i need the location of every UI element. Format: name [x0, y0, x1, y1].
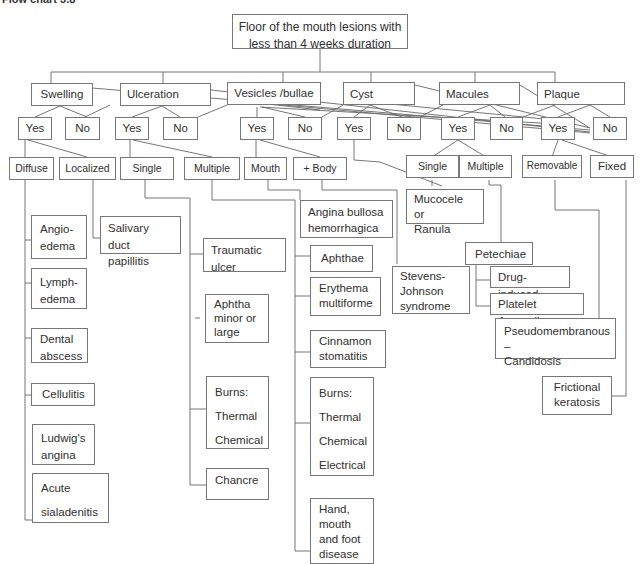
category-label: Ulceration: [127, 86, 179, 103]
subtype-label: Multiple: [467, 159, 503, 174]
dx-petechiae: Petechiae: [465, 242, 533, 265]
subtype-label: Single: [418, 159, 447, 174]
category-label: Macules: [446, 88, 489, 100]
no-label: No: [298, 120, 313, 137]
subtype-label: Multiple: [194, 161, 230, 176]
dx-angioedema: Angio- edema: [31, 215, 87, 259]
category-plaque: Plaque: [537, 82, 625, 105]
diagnosis-label: Dental abscess: [40, 333, 82, 362]
diagnosis-label: Cellulitis: [42, 388, 85, 400]
category-vesicles: Vesicles /bullae: [227, 82, 321, 105]
subtype-label: Single: [132, 161, 161, 176]
diagnosis-label: Angina bullosa hemorrhagica: [308, 206, 383, 234]
vesicles-yes: Yes: [240, 117, 274, 140]
diagnosis-label: Acute sialadenitis: [41, 482, 98, 518]
subtype-label: Diffuse: [15, 161, 48, 176]
ulceration-no: No: [163, 117, 198, 140]
category-label: Vesicles /bullae: [234, 85, 313, 102]
dx-frictional-keratosis: Frictional keratosis: [542, 376, 612, 415]
yes-label: Yes: [26, 120, 45, 137]
plaque-fixed: Fixed: [590, 155, 634, 178]
dx-aphthae: Aphthae: [310, 245, 373, 272]
diagnosis-label: Traumatic ulcer: [211, 244, 262, 273]
category-label: Plaque: [544, 88, 580, 100]
dx-cinnamon-stomatitis: Cinnamon stomatitis: [310, 330, 386, 368]
yes-label: Yes: [549, 120, 568, 137]
no-label: No: [603, 120, 618, 137]
no-label: No: [75, 120, 90, 137]
yes-label: Yes: [248, 120, 267, 137]
dx-traumatic-ulcer: Traumatic ulcer: [203, 238, 286, 272]
category-macules: Macules: [439, 82, 520, 105]
diagnosis-label: Aphthae: [321, 252, 364, 264]
category-swelling: Swelling: [31, 83, 93, 106]
diagnosis-label: Ludwig's angina: [41, 432, 85, 461]
macules-single: Single: [406, 155, 459, 178]
diagnosis-label: Erythema multiforme: [319, 282, 373, 309]
diagnosis-label: Burns: Thermal Chemical Electrical: [319, 387, 367, 471]
dx-ludwigs-angina: Ludwig's angina: [32, 424, 95, 465]
diagnosis-label: Burns: Thermal Chemical: [215, 386, 263, 446]
root-node: Floor of the mouth lesions with less tha…: [232, 14, 408, 49]
diagnosis-label: Aphtha minor or large: [214, 298, 256, 338]
category-ulceration: Ulceration: [120, 83, 211, 106]
swelling-no: No: [65, 117, 100, 140]
dx-hand-mouth-foot: Hand, mouth and foot disease: [310, 498, 374, 564]
diagnosis-label: Chancre: [215, 474, 258, 486]
category-label: Swelling: [41, 86, 84, 103]
dx-pseudomembranous-candidosis: Pseudomembranous – Candidosis: [495, 318, 616, 359]
ulceration-multiple: Multiple: [184, 157, 240, 180]
ulceration-yes: Yes: [115, 117, 149, 140]
dx-mucocele-ranula: Mucocele or Ranula: [406, 189, 484, 224]
diagnosis-label: Cinnamon stomatitis: [319, 335, 371, 362]
diagnosis-label: Frictional keratosis: [554, 381, 601, 408]
dx-angina-bullosa: Angina bullosa hemorrhagica: [300, 200, 393, 238]
plaque-yes: Yes: [541, 117, 575, 140]
dx-burns-multiple: Burns: Thermal Chemical Electrical: [310, 377, 374, 476]
root-label: Floor of the mouth lesions with less tha…: [239, 20, 402, 51]
vesicles-mouth: Mouth: [244, 157, 287, 180]
diagnosis-label: Angio- edema: [40, 223, 75, 252]
yes-label: Yes: [345, 120, 364, 137]
cyst-yes: Yes: [337, 117, 371, 140]
yes-label: Yes: [123, 120, 142, 137]
swelling-yes: Yes: [18, 117, 52, 140]
dx-cellulitis: Cellulitis: [31, 383, 95, 406]
swelling-localized: Localized: [59, 157, 116, 180]
category-label: Cyst: [350, 88, 373, 100]
dx-lymphedema: Lymph- edema: [31, 268, 87, 309]
vesicles-body: + Body: [293, 157, 347, 180]
subtype-label: Mouth: [251, 161, 280, 176]
no-label: No: [173, 120, 188, 137]
swelling-diffuse: Diffuse: [9, 157, 54, 180]
plaque-no: No: [593, 117, 627, 140]
diagnosis-label: Stevens- Johnson syndrome: [400, 270, 451, 312]
cyst-no: No: [387, 117, 421, 140]
dx-platelet-anomalies: Platelet Anomalies: [490, 293, 584, 315]
subtype-label: Fixed: [598, 158, 626, 175]
no-label: No: [499, 120, 514, 137]
diagnosis-label: Hand, mouth and foot disease: [319, 503, 361, 560]
dx-chancre: Chancre: [206, 468, 269, 500]
subtype-label: Localized: [65, 161, 109, 176]
dx-acute-sialadenitis: Acute sialadenitis: [32, 473, 109, 523]
dx-stevens-johnson: Stevens- Johnson syndrome: [392, 266, 470, 314]
dx-erythema-multiforme: Erythema multiforme: [310, 277, 381, 316]
yes-label: Yes: [449, 120, 468, 137]
no-label: No: [397, 120, 412, 137]
subtype-label: Removable: [527, 159, 578, 174]
vesicles-no: No: [288, 117, 322, 140]
diagnosis-label: Lymph- edema: [40, 276, 78, 305]
macules-no: No: [490, 117, 523, 140]
plaque-removable: Removable: [522, 155, 582, 178]
dx-drug-induced: Drug-induced: [490, 266, 570, 288]
subtype-label: + Body: [304, 161, 337, 176]
diagnosis-label: Petechiae: [475, 248, 526, 260]
macules-multiple: Multiple: [459, 155, 512, 178]
dx-aphtha-minor-large: Aphtha minor or large: [205, 294, 269, 343]
ulceration-single: Single: [120, 157, 174, 180]
diagnosis-label: Salivary duct papillitis: [108, 222, 149, 267]
category-cyst: Cyst: [343, 82, 415, 105]
dx-dental-abscess: Dental abscess: [31, 328, 88, 363]
dx-burns-single: Burns: Thermal Chemical: [206, 376, 269, 449]
